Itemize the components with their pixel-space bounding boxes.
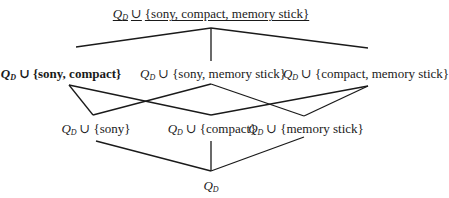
union-symbol: ∪ xyxy=(131,6,142,21)
set-label: {sony, compact} xyxy=(33,66,121,81)
q-symbol: QD xyxy=(1,66,16,81)
edge-compact-memory-to-memory xyxy=(304,86,368,116)
set-label: {compact, memory stick} xyxy=(315,66,449,81)
union-symbol: ∪ xyxy=(186,121,197,136)
node-sony: QD∪{sony} xyxy=(61,121,130,140)
q-symbol: QD xyxy=(283,66,298,81)
set-label: {memory stick} xyxy=(280,121,364,136)
edge-top-to-sony-compact xyxy=(76,28,211,47)
set-label: {sony} xyxy=(94,121,131,136)
node-compact-memory-stick: QD∪{compact, memory stick} xyxy=(283,66,449,85)
edge-memory-to-bottom xyxy=(211,137,304,171)
q-symbol: QD xyxy=(140,66,155,81)
edge-sony-to-bottom xyxy=(96,141,211,171)
node-memory-stick: QD∪{memory stick} xyxy=(248,121,364,140)
union-symbol: ∪ xyxy=(301,66,312,81)
q-symbol: QD xyxy=(168,121,183,136)
q-symbol: QD xyxy=(61,121,76,136)
edge-top-to-compact-memory xyxy=(211,28,368,48)
q-symbol: QD xyxy=(248,121,263,136)
node-sony-compact: QD∪{sony, compact} xyxy=(1,66,121,85)
node-sony-compact-memory-stick: QD∪{sony, compact, memory stick} xyxy=(113,6,309,25)
q-symbol: QD xyxy=(113,6,128,21)
edge-sony-memory-to-sony xyxy=(93,84,211,115)
set-label: {sony, memory stick} xyxy=(172,66,286,81)
set-label: {sony, compact, memory stick} xyxy=(145,6,309,21)
node-sony-memory-stick: QD∪{sony, memory stick} xyxy=(140,66,286,85)
node-base-qd: QD xyxy=(203,178,218,197)
union-symbol: ∪ xyxy=(266,121,277,136)
q-symbol: QD xyxy=(203,178,218,193)
union-symbol: ∪ xyxy=(19,66,30,81)
node-compact: QD∪{compact} xyxy=(168,121,257,140)
union-symbol: ∪ xyxy=(158,66,169,81)
union-symbol: ∪ xyxy=(80,121,91,136)
